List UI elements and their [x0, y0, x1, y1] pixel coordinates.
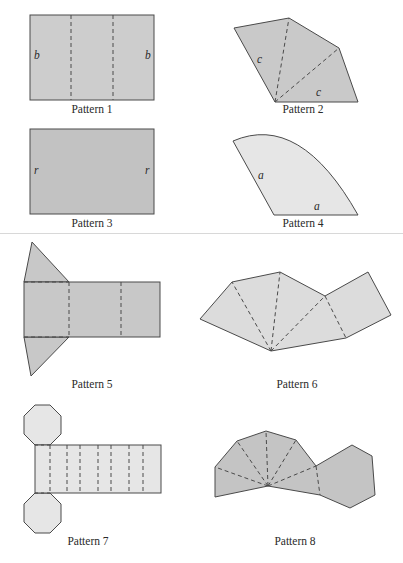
pattern-4-label-left: a	[258, 169, 264, 181]
pattern-1-caption: Pattern 1	[71, 103, 112, 115]
pattern-8-caption: Pattern 8	[274, 535, 315, 547]
pattern-3-label-right: r	[145, 164, 149, 176]
pattern-3-caption: Pattern 3	[71, 217, 112, 229]
pattern-6-net	[200, 272, 391, 351]
pattern-6-caption: Pattern 6	[276, 378, 317, 390]
pattern-4-label-bottom: a	[314, 200, 320, 212]
pattern-7-caption: Pattern 7	[67, 535, 108, 547]
pattern-2-label-bottom: c	[316, 86, 321, 98]
pattern-2-caption: Pattern 2	[282, 103, 323, 115]
page-fold-line	[0, 233, 403, 234]
pattern-5-caption: Pattern 5	[71, 378, 112, 390]
pattern-5-net	[24, 242, 160, 376]
pattern-2-net	[234, 18, 358, 102]
pattern-3-label-left: r	[34, 164, 38, 176]
pattern-1-label-left: b	[34, 49, 40, 61]
pattern-3-net	[30, 129, 154, 214]
pattern-2-label-left: c	[257, 53, 262, 65]
patterns-figure	[0, 0, 403, 563]
pattern-8-net	[215, 431, 375, 508]
pattern-1-label-right: b	[145, 49, 151, 61]
pattern-4-net	[233, 135, 358, 215]
pattern-4-caption: Pattern 4	[282, 217, 323, 229]
pattern-7-net	[24, 405, 161, 533]
pattern-1-net	[30, 15, 154, 100]
